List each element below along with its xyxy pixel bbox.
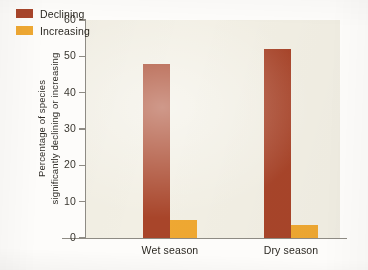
bar-wet-season-declining — [143, 64, 170, 238]
x-axis-label-wet-season: Wet season — [115, 244, 225, 256]
legend-item-increasing: Increasing — [16, 23, 90, 38]
bar-wet-season-increasing — [170, 220, 197, 238]
legend-item-declining: Declining — [16, 6, 90, 21]
y-axis-tick-label-40: 40 — [36, 86, 76, 98]
y-axis-tick-label-30: 30 — [36, 122, 76, 134]
legend-label-increasing: Increasing — [40, 25, 90, 37]
y-axis-tick-50 — [79, 56, 85, 57]
bar-dry-season-increasing — [291, 225, 318, 238]
x-axis-label-dry-season: Dry season — [236, 244, 346, 256]
y-axis-tick-30 — [79, 128, 85, 129]
y-axis-tick-10 — [79, 201, 85, 202]
y-axis-tick-label-20: 20 — [36, 158, 76, 170]
y-axis-tick-label-10: 10 — [36, 195, 76, 207]
y-axis-tick-20 — [79, 165, 85, 166]
y-axis-tick-label-0: 0 — [36, 231, 76, 243]
legend-swatch-increasing — [16, 26, 33, 35]
y-axis-tick-0 — [79, 237, 85, 238]
chart-legend: DecliningIncreasing — [16, 6, 90, 40]
legend-swatch-declining — [16, 9, 33, 18]
legend-label-declining: Declining — [40, 8, 85, 20]
y-axis-tick-label-50: 50 — [36, 49, 76, 61]
y-axis-tick-40 — [79, 92, 85, 93]
x-axis-line — [62, 238, 347, 239]
bar-chart-figure: Percentage of species significantly decl… — [0, 0, 368, 270]
bar-dry-season-declining — [264, 49, 291, 238]
plot-area — [86, 20, 340, 238]
